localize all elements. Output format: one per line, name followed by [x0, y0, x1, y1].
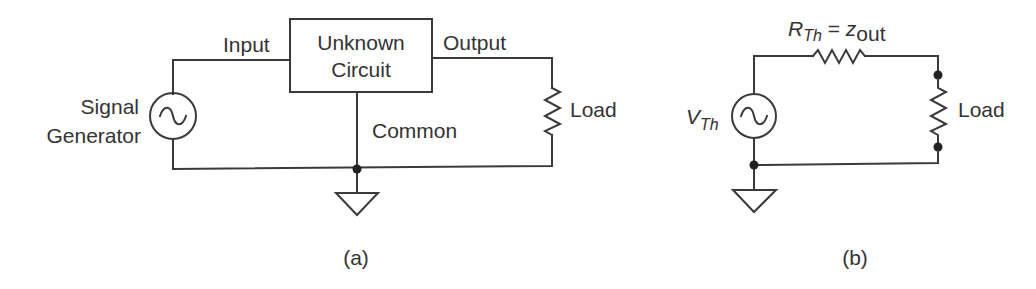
box-label-line1: Unknown	[317, 31, 405, 54]
load-label-b: Load	[958, 98, 1005, 121]
source-top-wire	[754, 56, 813, 94]
figure-a: Unknown Circuit Input Signal Generator C…	[46, 19, 616, 269]
common-label: Common	[372, 119, 457, 142]
signal-generator-icon	[150, 93, 196, 139]
caption-b: (b)	[842, 246, 868, 269]
vth-label: VTh	[686, 105, 719, 133]
circuit-diagram: Unknown Circuit Input Signal Generator C…	[0, 0, 1036, 289]
output-wire	[432, 58, 552, 88]
rth-output-wire	[865, 56, 938, 75]
junction-dot-b	[750, 161, 759, 170]
input-label: Input	[223, 33, 270, 56]
thevenin-source-icon	[732, 94, 776, 138]
generator-label-line1: Signal	[81, 95, 139, 118]
caption-a: (a)	[343, 246, 369, 269]
common-return-wire	[173, 135, 552, 169]
rth-label: RTh = zout	[788, 17, 886, 45]
junction-dot	[353, 165, 362, 174]
output-label: Output	[443, 31, 506, 54]
return-wire-b	[754, 151, 938, 165]
load-label-a: Load	[570, 98, 617, 121]
input-wire	[173, 60, 290, 94]
generator-label-line2: Generator	[46, 124, 141, 147]
figure-b: RTh = zout VTh Load (b)	[686, 17, 1005, 269]
load-resistor-b-icon	[931, 79, 946, 143]
box-label-line2: Circuit	[331, 58, 391, 81]
ground-b-icon	[733, 190, 776, 212]
load-resistor-icon	[545, 88, 560, 135]
ground-icon	[336, 193, 378, 215]
unknown-circuit-box	[290, 19, 432, 92]
rth-resistor-icon	[813, 50, 865, 63]
